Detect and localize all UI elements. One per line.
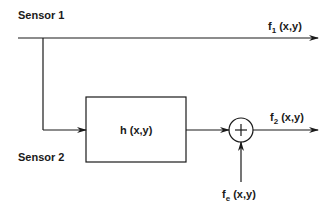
sensor1-label: Sensor 1 [18, 10, 64, 21]
f2-label: f2 (x,y) [270, 112, 304, 123]
fe-label: fe (x,y) [222, 189, 256, 200]
f1-args: (x,y) [276, 20, 302, 32]
fe-args: (x,y) [230, 188, 256, 200]
f1-label: f1 (x,y) [268, 21, 302, 32]
f2-args: (x,y) [278, 111, 304, 123]
sensor2-label: Sensor 2 [18, 152, 64, 163]
h-block-label: h (x,y) [120, 125, 152, 136]
fe-sub: e [226, 194, 230, 203]
f1-sub: 1 [272, 26, 276, 35]
f2-sub: 2 [274, 117, 278, 126]
